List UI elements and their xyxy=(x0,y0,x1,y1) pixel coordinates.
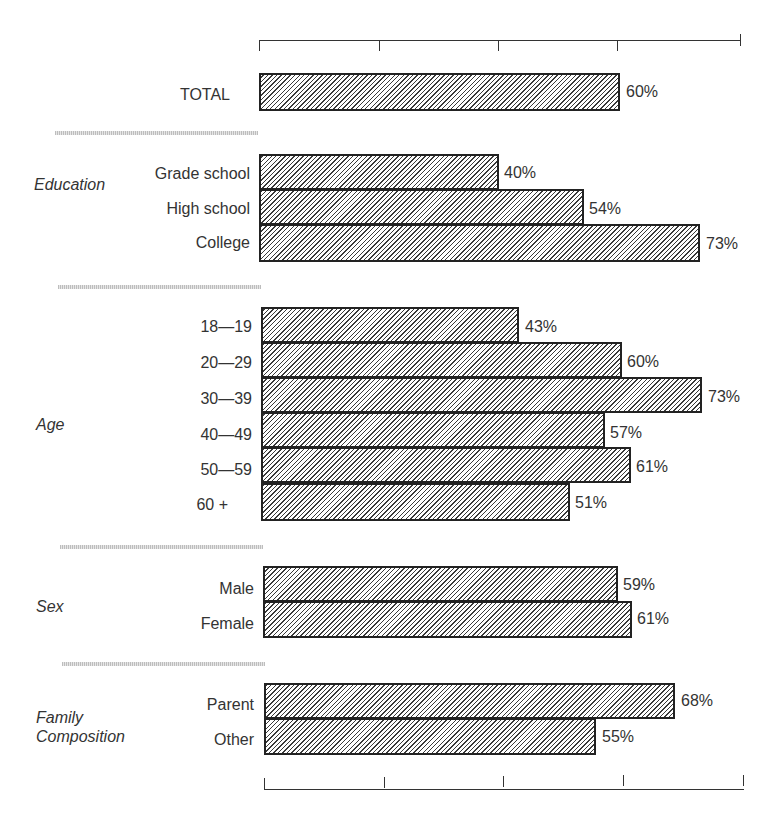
top-axis xyxy=(259,40,740,41)
top-axis-tick-40 xyxy=(498,40,499,51)
category-label-60-plus: 60 + xyxy=(28,496,228,514)
bar-60-plus xyxy=(261,483,570,521)
value-label-female: 61% xyxy=(637,610,669,628)
value-label-high-school: 54% xyxy=(589,200,621,218)
bottom-axis-tick-0 xyxy=(264,778,265,789)
value-label-18-19: 43% xyxy=(525,318,557,336)
bar-40-49 xyxy=(261,412,605,448)
bar-male xyxy=(263,566,618,602)
bar-high-school xyxy=(259,189,584,225)
top-axis-tick-60 xyxy=(617,40,618,51)
category-label-parent: Parent xyxy=(54,696,254,714)
category-label-female: Female xyxy=(54,615,254,633)
category-label-high-school: High school xyxy=(50,200,250,218)
bottom-axis-tick-40 xyxy=(503,776,504,787)
category-label-18-19: 18—19 xyxy=(52,318,252,336)
bar-30-39 xyxy=(261,377,702,413)
group-label-sex: Sex xyxy=(36,597,64,616)
top-axis-tick-0 xyxy=(259,40,260,51)
bar-other xyxy=(264,718,596,755)
bottom-axis-tick-60 xyxy=(623,775,624,786)
bar-20-29 xyxy=(261,342,622,378)
top-axis-tick-80 xyxy=(740,34,741,46)
value-label-40-49: 57% xyxy=(610,424,642,442)
category-label-20-29: 20—29 xyxy=(52,354,252,372)
section-divider xyxy=(55,131,258,135)
bar-50-59 xyxy=(261,447,631,483)
category-label-40-49: 40—49 xyxy=(52,426,252,444)
value-label-50-59: 61% xyxy=(636,458,668,476)
value-label-other: 55% xyxy=(602,728,634,746)
category-label-30-39: 30—39 xyxy=(52,390,252,408)
value-label-60-plus: 51% xyxy=(575,494,607,512)
value-label-total: 60% xyxy=(626,83,658,101)
section-divider xyxy=(60,545,263,549)
bar-total xyxy=(259,73,620,111)
value-label-male: 59% xyxy=(623,576,655,594)
category-label-grade-school: Grade school xyxy=(50,165,250,183)
value-label-college: 73% xyxy=(706,235,738,253)
bottom-axis-tick-20 xyxy=(384,777,385,788)
bar-parent xyxy=(264,683,675,719)
category-label-50-59: 50—59 xyxy=(52,461,252,479)
section-divider xyxy=(58,285,261,289)
value-label-30-39: 73% xyxy=(708,388,740,406)
value-label-parent: 68% xyxy=(681,692,713,710)
category-label-male: Male xyxy=(54,580,254,598)
bar-grade-school xyxy=(259,154,499,190)
bottom-axis xyxy=(264,789,744,790)
bar-18-19 xyxy=(261,307,519,343)
category-label-college: College xyxy=(50,234,250,252)
category-label-other: Other xyxy=(54,731,254,749)
bar-female xyxy=(263,601,632,638)
bar-college xyxy=(259,224,700,262)
top-axis-tick-20 xyxy=(379,40,380,51)
bottom-axis-tick-80 xyxy=(743,775,744,786)
value-label-20-29: 60% xyxy=(627,353,659,371)
section-divider xyxy=(62,662,265,666)
value-label-grade-school: 40% xyxy=(504,164,536,182)
category-label-total: TOTAL xyxy=(30,86,230,104)
